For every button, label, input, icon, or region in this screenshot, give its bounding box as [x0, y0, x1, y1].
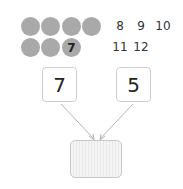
answer-box[interactable]: [70, 140, 122, 178]
arrow-left-icon: [61, 104, 94, 139]
arrow-right-icon: [100, 104, 133, 139]
